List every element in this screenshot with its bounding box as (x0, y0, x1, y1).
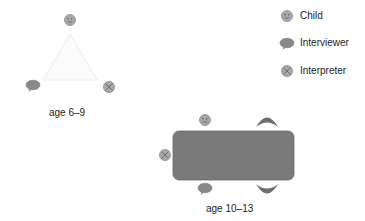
triangle-shape (43, 34, 97, 80)
legend-interpreter-icon (282, 66, 293, 77)
interpreter-icon (160, 150, 171, 161)
table-arrangement (160, 115, 295, 196)
legend-interviewer-icon (280, 38, 294, 50)
legend-child-icon (282, 11, 293, 22)
child-icon (65, 15, 76, 26)
table-shape (173, 131, 294, 180)
interviewer-icon (26, 80, 40, 92)
triangle-arrangement (26, 15, 115, 93)
interviewer-icon (198, 183, 212, 195)
crescent-top-icon (256, 118, 278, 128)
caption-age-10-13: age 10–13 (206, 203, 253, 214)
legend-icons (280, 11, 294, 77)
caption-age-6-9: age 6–9 (49, 107, 85, 118)
legend-label-child: Child (300, 10, 323, 21)
crescent-bottom-icon (256, 184, 278, 194)
legend-label-interviewer: Interviewer (300, 37, 349, 48)
child-icon (200, 115, 211, 126)
interpreter-icon (104, 82, 115, 93)
legend-label-interpreter: Interpreter (300, 65, 346, 76)
